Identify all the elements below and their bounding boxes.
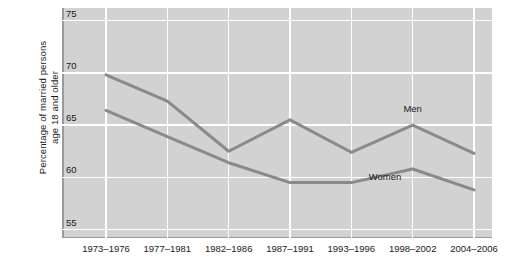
- series-line-men: [106, 75, 474, 153]
- y-axis-title: Percentage of married persons age 18 and…: [37, 0, 60, 218]
- x-tick-label-4: 1993–1996: [328, 243, 376, 254]
- series-label-men: Men: [403, 103, 421, 114]
- y-tick-label-75: 75: [66, 8, 77, 20]
- y-tick-label-60: 60: [66, 164, 77, 176]
- series-label-women: Women: [369, 171, 402, 182]
- x-tick-label-5: 1998–2002: [389, 243, 437, 254]
- y-tick-label-70: 70: [66, 60, 77, 72]
- x-tick-label-3: 1987–1991: [266, 243, 314, 254]
- plot-area: 7570656055 MenWomen: [62, 8, 492, 238]
- x-tick-label-2: 1982–1986: [205, 243, 253, 254]
- y-tick-label-65: 65: [66, 112, 77, 124]
- series-line-women: [106, 110, 474, 189]
- data-series-lines: [62, 8, 492, 238]
- x-tick-label-0: 1973–1976: [82, 243, 130, 254]
- x-tick-label-1: 1977–1981: [144, 243, 192, 254]
- y-tick-label-55: 55: [66, 217, 77, 229]
- x-tick-label-6: 2004–2006: [450, 243, 498, 254]
- chart-figure: Percentage of married persons age 18 and…: [0, 0, 508, 273]
